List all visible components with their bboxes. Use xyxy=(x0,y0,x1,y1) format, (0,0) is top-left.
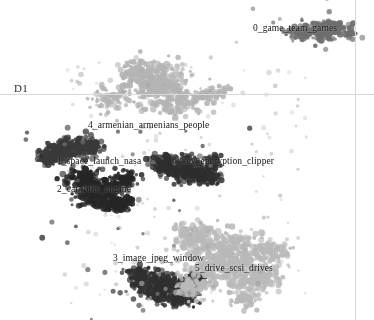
horizontal-axis-line xyxy=(0,94,374,95)
axis-label-d1: D1 xyxy=(14,82,28,94)
scatter-plot-figure: D1 0_game_team_games4_armenian_armenians… xyxy=(0,0,374,320)
cluster-label-3: 3_image_jpeg_window xyxy=(113,253,204,263)
cluster-label-6: 6_key_encryption_clipper xyxy=(172,156,274,166)
cluster-label-2: 2_car_bike_engine xyxy=(57,184,131,194)
cluster-label-1: 1_space_launch_nasa xyxy=(57,156,141,166)
cluster-label-5: 5_drive_scsi_drives xyxy=(195,263,273,273)
vertical-axis-line xyxy=(355,0,356,320)
cluster-label-0: 0_game_team_games xyxy=(253,23,337,33)
cluster-label-4: 4_armenian_armenians_people xyxy=(88,120,209,130)
